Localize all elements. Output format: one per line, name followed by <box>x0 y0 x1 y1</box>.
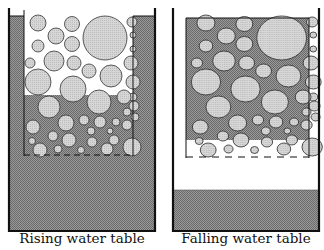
water-fill <box>173 190 319 231</box>
falling-water-table-diagram <box>173 8 322 231</box>
caption-rising: Rising water table <box>2 230 162 246</box>
rising-water-table-diagram <box>9 8 155 231</box>
diagram-canvas <box>0 0 324 250</box>
caption-falling: Falling water table <box>166 230 324 246</box>
